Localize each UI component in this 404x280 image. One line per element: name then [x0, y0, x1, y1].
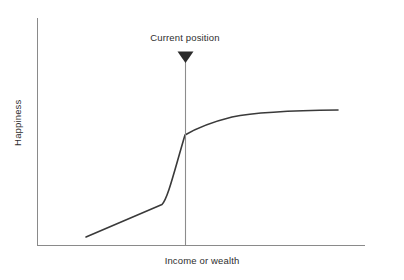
down-triangle-icon: [178, 52, 194, 64]
current-position-label: Current position: [0, 33, 370, 43]
chart-container: Current position Happiness Income or wea…: [0, 0, 404, 280]
x-axis-label: Income or wealth: [0, 256, 404, 266]
happiness-curve: [86, 110, 338, 237]
